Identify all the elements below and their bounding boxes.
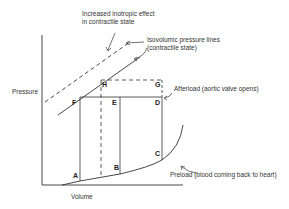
point-a: A — [73, 172, 78, 179]
inotropic-label-2: in contractile state — [82, 18, 134, 26]
inotropic-arrow — [108, 33, 115, 50]
afterload-label: Afterload (aortic valve opens) — [174, 85, 259, 93]
y-axis-label: Pressure — [12, 88, 38, 96]
isovolumic-label-1: Isovolumic pressure lines — [147, 36, 220, 44]
point-b: B — [114, 164, 119, 171]
inotropic-label-1: Increased inotropic effect — [82, 10, 155, 18]
isovolumic-line — [58, 57, 140, 115]
point-f: F — [72, 99, 76, 106]
point-h: H — [102, 81, 107, 88]
point-g: G — [155, 81, 160, 88]
isovolumic-arrow-1 — [127, 42, 144, 43]
point-d: D — [155, 99, 160, 106]
isovolumic-label-2: (contractile state) — [147, 44, 197, 52]
inotropic-line — [45, 42, 130, 102]
x-axis-label: Volume — [71, 193, 93, 201]
point-e: E — [112, 99, 117, 106]
afterload-arrow — [165, 93, 172, 98]
point-c: C — [155, 150, 160, 157]
preload-label: Preload (blood coming back to heart) — [170, 171, 277, 179]
